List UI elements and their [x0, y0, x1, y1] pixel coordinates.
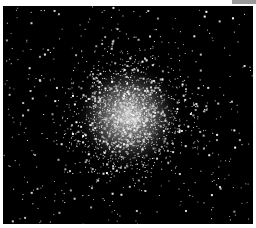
star-field [3, 6, 253, 224]
corner-tab [232, 0, 256, 4]
star-cluster-image [3, 6, 253, 224]
